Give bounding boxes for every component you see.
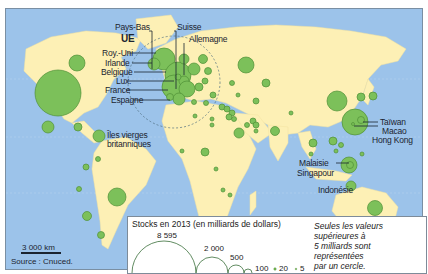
scale-bar [21, 252, 61, 254]
legend-value-100: 100 [255, 264, 268, 273]
legend-note-line: représentées [314, 251, 383, 261]
legend-note-line: Seules les valeurs [314, 221, 383, 231]
source-label: Source : Cnuced. [11, 257, 73, 266]
label-malaisie: Malaisie [299, 159, 329, 168]
label-espagne: Espagne [111, 96, 143, 105]
legend-note-line: 5 milliards sont [314, 241, 383, 251]
label-hong-kong: Hong Kong [372, 136, 413, 145]
label-iles-vierges-2: britanniques [107, 140, 151, 149]
label-allemagne: Allemagne [189, 35, 227, 44]
legend-value-2000: 2 000 [204, 244, 224, 253]
legend-value-500: 500 [230, 253, 243, 262]
label-ue: UE [121, 34, 135, 43]
legend-note-line: par un cercle. [314, 261, 383, 271]
legend-note: Seules les valeurs supérieures à 5 milli… [314, 221, 383, 271]
label-indonesie: Indonésie [318, 186, 353, 195]
label-singapour: Singapour [297, 169, 334, 178]
label-suisse: Suisse [177, 23, 201, 32]
label-roy-uni: Roy.-Uni [102, 49, 133, 58]
legend: Stocks en 2013 (en milliards de dollars)… [127, 216, 427, 274]
legend-title: Stocks en 2013 (en milliards de dollars) [132, 219, 281, 229]
scale-label: 3 000 km [22, 243, 55, 252]
legend-value-8595: 8 595 [157, 231, 177, 240]
legend-value-20: 20 [279, 264, 288, 273]
legend-note-line: supérieures à [314, 231, 383, 241]
legend-value-5: 5 [300, 264, 304, 273]
label-pays-bas: Pays-Bas [115, 23, 150, 32]
label-france: France [105, 86, 130, 95]
